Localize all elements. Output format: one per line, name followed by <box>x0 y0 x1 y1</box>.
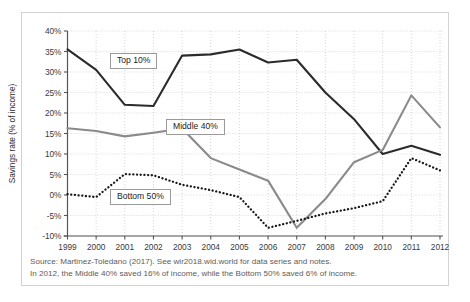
svg-text:-10%: -10% <box>42 231 62 241</box>
svg-text:2012: 2012 <box>431 242 450 252</box>
x-axis-tick-labels: 1999200020012002200320042005200620072008… <box>58 242 449 252</box>
svg-text:2005: 2005 <box>230 242 249 252</box>
svg-text:2010: 2010 <box>373 242 392 252</box>
svg-text:-5%: -5% <box>47 211 62 221</box>
svg-text:2009: 2009 <box>345 242 364 252</box>
figure-root: 40%35%30%25%20%15%10%5%0%-5%-10% 1999200… <box>0 0 470 302</box>
series-label-bottom50: Bottom 50% <box>110 189 171 205</box>
svg-text:10%: 10% <box>45 149 62 159</box>
svg-text:35%: 35% <box>45 47 62 57</box>
svg-text:15%: 15% <box>45 129 62 139</box>
svg-text:2006: 2006 <box>259 242 278 252</box>
svg-text:20%: 20% <box>45 108 62 118</box>
footnote-note: In 2012, the Middle 40% saved 16% of inc… <box>30 268 442 280</box>
svg-text:25%: 25% <box>45 88 62 98</box>
svg-text:5%: 5% <box>50 170 63 180</box>
svg-text:2001: 2001 <box>116 242 135 252</box>
series-label-middle40: Middle 40% <box>166 119 225 135</box>
series-line-middle-40 <box>68 95 441 227</box>
svg-text:40%: 40% <box>45 26 62 36</box>
svg-text:2003: 2003 <box>173 242 192 252</box>
svg-text:0%: 0% <box>50 190 63 200</box>
svg-text:2004: 2004 <box>202 242 221 252</box>
svg-text:2000: 2000 <box>87 242 106 252</box>
series-label-top10: Top 10% <box>110 53 157 69</box>
chart-footnotes: Source: Martinez-Toledano (2017). See wi… <box>30 256 442 281</box>
svg-text:30%: 30% <box>45 67 62 77</box>
footnote-source: Source: Martinez-Toledano (2017). See wi… <box>30 256 442 268</box>
y-axis-tick-labels: 40%35%30%25%20%15%10%5%0%-5%-10% <box>42 26 62 241</box>
svg-text:2011: 2011 <box>402 242 420 252</box>
svg-text:1999: 1999 <box>58 242 77 252</box>
svg-text:2007: 2007 <box>287 242 306 252</box>
svg-text:Savings rate (% of income): Savings rate (% of income) <box>7 83 17 183</box>
svg-text:2008: 2008 <box>316 242 335 252</box>
svg-text:2002: 2002 <box>144 242 163 252</box>
y-axis-title: Savings rate (% of income) <box>7 83 17 183</box>
